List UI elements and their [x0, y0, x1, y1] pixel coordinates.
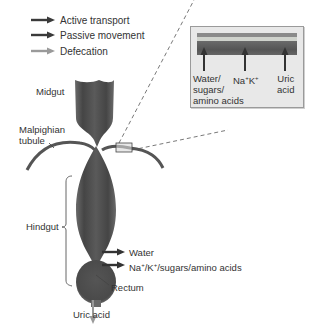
label-line: tubule — [19, 135, 65, 146]
label-malpighian-tubule: Malpighian tubule — [19, 124, 65, 146]
label-ions-sugars-amino-acids: Na+/K+/sugars/amino acids — [129, 260, 242, 273]
epithelium-inset: Water/ sugars/ amino acids Na+K+ Uric ac… — [190, 26, 304, 108]
label-water: Water — [129, 247, 154, 258]
hindgut-bracket — [62, 176, 72, 286]
legend-label: Defecation — [60, 46, 108, 57]
label-line: Malpighian — [19, 124, 65, 135]
zoom-line-lower — [132, 130, 228, 150]
legend-item-passive-movement: Passive movement — [30, 29, 144, 41]
text: Na — [129, 262, 141, 273]
legend-label: Passive movement — [60, 30, 144, 41]
inset-label-uric-acid: Uric acid — [277, 73, 294, 95]
zoom-line-upper — [119, 0, 194, 143]
inset-arrow-uric-acid — [282, 47, 289, 71]
legend-label: Active transport — [60, 15, 129, 26]
malpighian-tubule-right — [102, 146, 163, 168]
legend-item-active-transport: Active transport — [30, 14, 129, 26]
text: Na — [233, 75, 245, 86]
inset-arrow-na-k — [242, 47, 249, 71]
malpighian-tubule-left — [27, 142, 95, 170]
text: /K — [145, 262, 154, 273]
rectum — [76, 260, 116, 304]
label-midgut: Midgut — [36, 86, 65, 97]
inset-label-line: Uric — [277, 73, 294, 84]
hindgut — [76, 146, 116, 268]
superscript: + — [255, 75, 259, 81]
inset-arrow-water — [201, 47, 208, 71]
label-uric-acid: Uric acid — [73, 309, 110, 320]
legend-item-defecation: Defecation — [30, 45, 108, 57]
text: /sugars/amino acids — [157, 262, 241, 273]
inset-label-line: amino acids — [193, 95, 244, 106]
label-hindgut: Hindgut — [26, 221, 59, 232]
inset-label-line: acid — [277, 84, 294, 95]
label-rectum: Rectum — [111, 282, 144, 293]
inset-label-na-k: Na+K+ — [233, 73, 259, 86]
zoom-region-marker — [116, 143, 132, 152]
midgut — [75, 80, 114, 147]
